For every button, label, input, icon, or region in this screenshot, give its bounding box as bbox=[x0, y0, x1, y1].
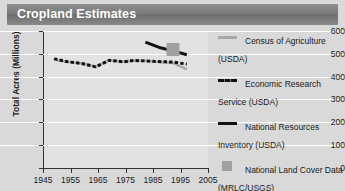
x-tick-label-1985: 1985 bbox=[138, 175, 168, 185]
solid-gray-line-swatch-icon bbox=[218, 36, 237, 49]
figure-title-bar: Cropland Estimates bbox=[7, 4, 338, 25]
x-tick-mark-1965 bbox=[98, 169, 99, 173]
legend-item-nlcd: National Land Cover Data (MRLC/USGS) bbox=[218, 159, 343, 191]
legend-label-nlcd: National Land Cover Data (MRLC/USGS) bbox=[218, 165, 343, 191]
solid-black-line-swatch-icon bbox=[218, 122, 237, 135]
legend-item-ers: Economic Research Service (USDA) bbox=[218, 73, 343, 109]
cropland-estimates-figure: Cropland Estimates Total Acres (Millions… bbox=[0, 0, 345, 191]
x-tick-label-1945: 1945 bbox=[28, 175, 58, 185]
x-tick-label-1955: 1955 bbox=[56, 175, 86, 185]
dashed-black-line-swatch-icon bbox=[218, 79, 237, 92]
x-tick-label-1965: 1965 bbox=[83, 175, 113, 185]
x-tick-mark-1975 bbox=[126, 169, 127, 173]
y-axis-label: Total Acres (Millions) bbox=[11, 24, 21, 124]
x-tick-mark-1955 bbox=[71, 169, 72, 173]
gray-square-swatch-icon bbox=[222, 161, 232, 171]
data-series-line bbox=[145, 42, 187, 55]
x-tick-label-1975: 1975 bbox=[111, 175, 141, 185]
chart-legend: Census of Agriculture (USDA) Economic Re… bbox=[218, 30, 343, 191]
x-tick-mark-1985 bbox=[153, 169, 154, 173]
x-tick-label-1995: 1995 bbox=[166, 175, 196, 185]
data-series-layer bbox=[43, 31, 209, 169]
x-tick-mark-2005 bbox=[208, 169, 209, 173]
x-tick-mark-1945 bbox=[43, 169, 44, 173]
legend-item-census: Census of Agriculture (USDA) bbox=[218, 30, 343, 66]
x-tick-mark-1995 bbox=[181, 169, 182, 173]
data-marker-square bbox=[167, 43, 180, 56]
legend-item-nri: National Resources Inventory (USDA) bbox=[218, 116, 343, 152]
figure-title: Cropland Estimates bbox=[17, 7, 136, 21]
